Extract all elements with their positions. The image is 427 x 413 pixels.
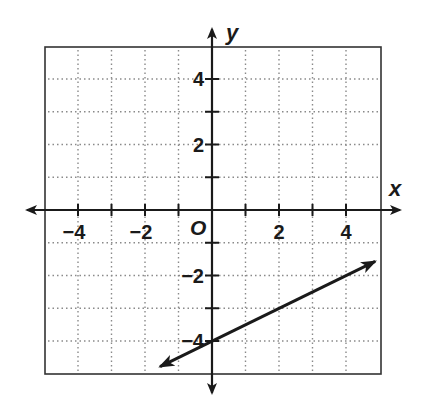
x-tick-label: 2 <box>273 221 284 243</box>
y-tick-label: 2 <box>193 134 204 156</box>
x-tick-label: −2 <box>130 221 153 243</box>
x-tick-label: −4 <box>63 221 87 243</box>
y-axis-label: y <box>225 20 240 45</box>
x-axis-label: x <box>388 176 402 201</box>
y-tick-label: −4 <box>181 330 205 352</box>
x-tick-label: 4 <box>340 221 352 243</box>
y-tick-label: 4 <box>193 68 205 90</box>
y-tick-label: −2 <box>181 265 204 287</box>
coordinate-plane: −4−22442−2−4 y x O <box>0 0 427 413</box>
origin-label: O <box>190 216 206 239</box>
